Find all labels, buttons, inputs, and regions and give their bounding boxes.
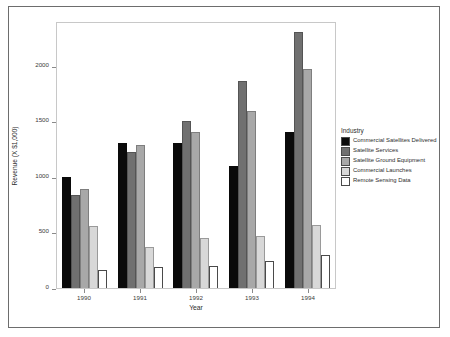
x-axis-title: Year xyxy=(56,304,336,311)
legend-item[interactable]: Remote Sensing Data xyxy=(341,176,439,186)
y-tick: 0 xyxy=(0,289,56,290)
bar[interactable] xyxy=(71,195,80,288)
legend-item[interactable]: Commercial Satellites Delivered xyxy=(341,136,439,146)
legend-swatch xyxy=(341,147,350,156)
x-tick-mark xyxy=(84,289,85,293)
y-tick-label: 2000 xyxy=(35,62,49,68)
legend-items: Commercial Satellites DeliveredSatellite… xyxy=(341,136,439,186)
bar[interactable] xyxy=(89,226,98,288)
bar[interactable] xyxy=(62,177,71,288)
x-tick: 1994 xyxy=(282,289,334,301)
legend-swatch xyxy=(341,177,350,186)
x-tick-label: 1993 xyxy=(226,295,278,301)
bar[interactable] xyxy=(321,255,330,288)
bar[interactable] xyxy=(173,143,182,288)
y-tick-label: 0 xyxy=(46,284,49,290)
legend: Industry Commercial Satellites Delivered… xyxy=(341,128,439,186)
y-tick-label: 1000 xyxy=(35,173,49,179)
legend-swatch xyxy=(341,137,350,146)
x-axis: 19901991199219931994 Year xyxy=(56,289,336,313)
y-tick-label: 1500 xyxy=(35,117,49,123)
x-tick-label: 1991 xyxy=(114,295,166,301)
x-tick: 1990 xyxy=(58,289,110,301)
legend-item[interactable]: Satellite Services xyxy=(341,146,439,156)
x-tick-label: 1990 xyxy=(58,295,110,301)
bar[interactable] xyxy=(209,266,218,288)
legend-swatch xyxy=(341,157,350,166)
legend-item-label: Satellite Ground Equipment xyxy=(353,158,425,164)
bar[interactable] xyxy=(294,32,303,288)
bar[interactable] xyxy=(98,270,107,288)
bar[interactable] xyxy=(118,143,127,288)
bars-area xyxy=(57,23,335,288)
y-tick-label: 500 xyxy=(39,228,49,234)
bar[interactable] xyxy=(127,152,136,288)
bar-group xyxy=(62,23,107,288)
legend-item-label: Satellite Services xyxy=(353,148,398,154)
x-axis-ticks: 19901991199219931994 xyxy=(56,289,336,303)
bar[interactable] xyxy=(285,132,294,288)
y-tick: 1500 xyxy=(0,122,56,123)
bar[interactable] xyxy=(154,267,163,288)
x-tick: 1993 xyxy=(226,289,278,301)
x-tick: 1991 xyxy=(114,289,166,301)
bar[interactable] xyxy=(200,238,209,288)
x-tick-mark xyxy=(252,289,253,293)
x-tick-label: 1992 xyxy=(170,295,222,301)
y-tick: 2000 xyxy=(0,67,56,68)
plot-panel xyxy=(56,22,336,289)
x-tick-mark xyxy=(140,289,141,293)
x-tick-mark xyxy=(196,289,197,293)
bar[interactable] xyxy=(182,121,191,288)
bar[interactable] xyxy=(256,236,265,288)
y-tick: 500 xyxy=(0,233,56,234)
bar[interactable] xyxy=(247,111,256,288)
bar-group xyxy=(118,23,163,288)
y-axis-title: Revenue (X $1,000) xyxy=(11,126,18,185)
legend-item-label: Commercial Launches xyxy=(353,168,412,174)
bar-group xyxy=(229,23,274,288)
bar-group xyxy=(285,23,330,288)
bar[interactable] xyxy=(136,145,145,289)
bar[interactable] xyxy=(265,261,274,288)
chart-figure: Revenue (X $1,000) 0500100015002000 1990… xyxy=(0,0,450,337)
bar[interactable] xyxy=(191,132,200,288)
bar[interactable] xyxy=(80,189,89,288)
bar[interactable] xyxy=(312,225,321,288)
x-tick-mark xyxy=(308,289,309,293)
legend-item[interactable]: Satellite Ground Equipment xyxy=(341,156,439,166)
y-axis: Revenue (X $1,000) 0500100015002000 xyxy=(0,22,56,289)
legend-item[interactable]: Commercial Launches xyxy=(341,166,439,176)
bar[interactable] xyxy=(303,69,312,288)
y-tick: 1000 xyxy=(0,178,56,179)
legend-item-label: Remote Sensing Data xyxy=(353,178,411,184)
bar-group xyxy=(173,23,218,288)
plot-inner xyxy=(57,23,335,288)
legend-swatch xyxy=(341,167,350,176)
bar[interactable] xyxy=(229,166,238,288)
x-tick-label: 1994 xyxy=(282,295,334,301)
bar[interactable] xyxy=(145,247,154,288)
legend-title: Industry xyxy=(341,128,439,134)
x-tick: 1992 xyxy=(170,289,222,301)
legend-item-label: Commercial Satellites Delivered xyxy=(353,138,436,144)
bar[interactable] xyxy=(238,81,247,288)
